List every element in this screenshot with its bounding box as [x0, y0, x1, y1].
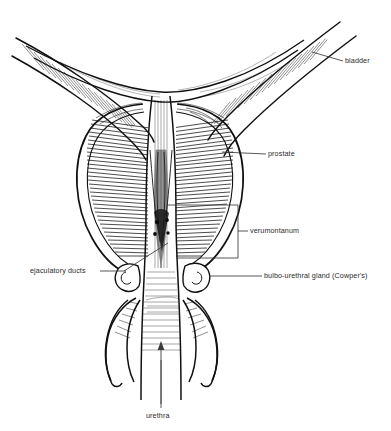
- crus-right: [183, 298, 217, 387]
- label-ejaculatory-ducts: ejaculatory ducts: [30, 267, 86, 274]
- bulb-shading: [146, 297, 179, 312]
- leader-bladder: [312, 52, 343, 61]
- bulbo-urethral-gland-left: [115, 264, 140, 291]
- label-prostate: prostate: [268, 150, 295, 157]
- bulbo-urethral-gland-right: [183, 263, 210, 292]
- leader-prostate: [222, 152, 266, 154]
- bladder-base-shading: [60, 50, 298, 97]
- membranous-urethra-shading: [141, 272, 181, 350]
- bladder-base: [26, 40, 304, 102]
- label-urethra: urethra: [146, 412, 169, 419]
- label-bulbo-urethral-gland: bulbo-urethral gland (Cowper's): [264, 272, 368, 279]
- label-bladder: bladder: [345, 57, 370, 64]
- diagram-artwork: [0, 0, 391, 431]
- urethra-arrow: [158, 341, 165, 404]
- label-verumontanum: verumontanum: [250, 227, 299, 234]
- crus-left: [106, 298, 140, 387]
- anatomical-diagram: bladder prostate verumontanum bulbo-uret…: [0, 0, 391, 431]
